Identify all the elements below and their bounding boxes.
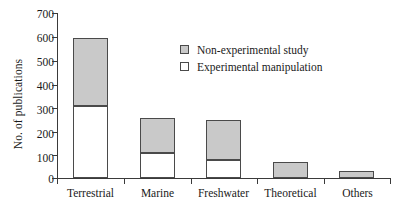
- y-tick-label-500: 500: [28, 57, 54, 67]
- x-tick-mark: [191, 179, 192, 184]
- bar-others: [339, 171, 374, 178]
- y-tick-label-200: 200: [28, 129, 54, 139]
- y-tick-label-600: 600: [28, 33, 54, 43]
- bar-segment-experimental: [73, 106, 108, 178]
- x-tick-mark: [57, 179, 58, 184]
- x-tick-label-freshwater: Freshwater: [190, 186, 257, 200]
- bar-freshwater: [206, 120, 241, 178]
- y-tick-label-100: 100: [28, 153, 54, 163]
- x-tick-label-theoretical: Theoretical: [257, 186, 324, 200]
- x-tick-mark: [324, 179, 325, 184]
- legend-item-experimental: Experimental manipulation: [180, 58, 323, 75]
- bar-segment-nonexperimental: [206, 120, 241, 160]
- legend-swatch-icon: [180, 62, 189, 71]
- x-tick-label-marine: Marine: [124, 186, 191, 200]
- bar-segment-experimental: [140, 153, 175, 178]
- y-tick-label-400: 400: [28, 81, 54, 91]
- bar-theoretical: [273, 162, 308, 179]
- bar-terrestrial: [73, 38, 108, 178]
- legend-swatch-icon: [180, 45, 189, 54]
- bar-segment-nonexperimental: [140, 118, 175, 153]
- y-tick-label-700: 700: [28, 9, 54, 19]
- bar-segment-nonexperimental: [339, 171, 374, 178]
- legend-label-experimental: Experimental manipulation: [197, 61, 323, 73]
- bar-chart-figure: No. of publications 700 600 500 400 300 …: [0, 0, 402, 210]
- x-tick-mark: [124, 179, 125, 184]
- chart-legend: Non-experimental study Experimental mani…: [180, 41, 323, 75]
- legend-item-nonexperimental: Non-experimental study: [180, 41, 323, 58]
- x-tick-mark: [390, 179, 391, 184]
- bar-segment-experimental: [206, 160, 241, 178]
- bar-segment-nonexperimental: [273, 162, 308, 179]
- y-axis-label: No. of publications: [9, 14, 27, 194]
- legend-label-nonexperimental: Non-experimental study: [197, 44, 308, 56]
- bar-segment-nonexperimental: [73, 38, 108, 106]
- y-tick-label-0: 0: [28, 174, 54, 184]
- y-tick-label-300: 300: [28, 105, 54, 115]
- x-tick-label-terrestrial: Terrestrial: [57, 186, 124, 200]
- y-axis-line: [57, 13, 58, 179]
- x-tick-mark: [257, 179, 258, 184]
- x-tick-label-others: Others: [324, 186, 391, 200]
- x-axis-line: [57, 178, 391, 179]
- bar-marine: [140, 118, 175, 178]
